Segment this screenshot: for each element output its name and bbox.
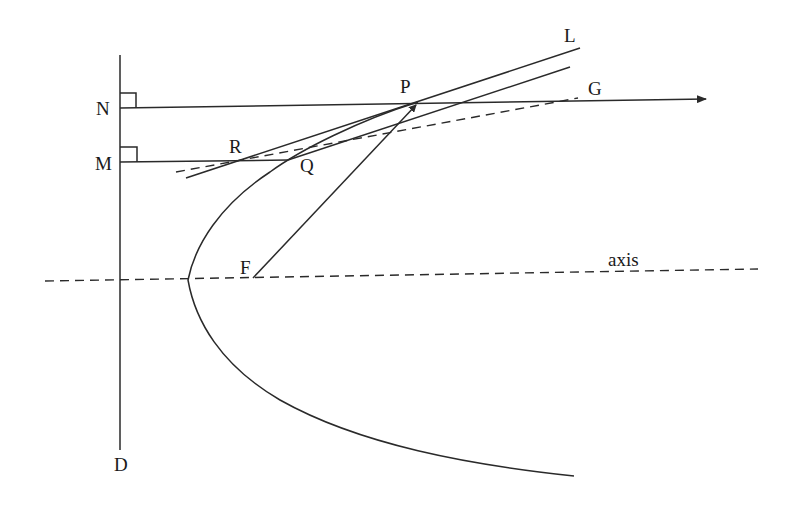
focal-ray-fp (253, 105, 416, 278)
label-n: N (96, 98, 110, 119)
parabola-diagram: N M P L G R Q F D axis (0, 0, 787, 507)
right-angle-marker-n (120, 93, 136, 108)
label-m: M (95, 153, 112, 174)
label-f: F (240, 257, 251, 278)
mq-line (120, 160, 288, 162)
label-p: P (400, 76, 411, 97)
label-d: D (114, 454, 128, 475)
dashed-line-g (176, 98, 578, 172)
label-r: R (229, 136, 242, 157)
label-q: Q (300, 155, 314, 176)
label-axis: axis (608, 249, 639, 270)
label-l: L (564, 25, 576, 46)
right-angle-marker-m (120, 147, 137, 162)
tangent-line-rl (186, 48, 580, 178)
chord-line-qp (288, 67, 570, 160)
axis-line (45, 269, 758, 281)
label-g: G (588, 78, 602, 99)
